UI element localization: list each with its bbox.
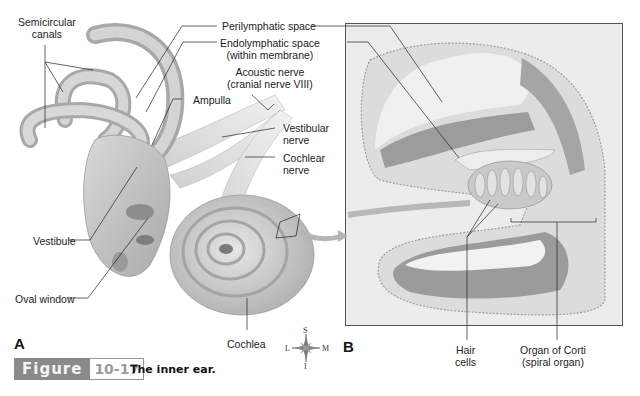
vestibule-shape xyxy=(84,135,170,276)
label-line: Cochlear xyxy=(283,152,325,164)
label-perilymphatic-space: Perilymphatic space xyxy=(222,20,316,32)
compass-inferior: I xyxy=(304,362,307,371)
label-line: (cranial nerve VIII) xyxy=(227,78,313,90)
label-line: nerve xyxy=(283,164,325,176)
label-line: cells xyxy=(455,356,476,368)
label-vestibule: Vestibule xyxy=(33,235,76,247)
figure-badge: Figure 10-17 xyxy=(14,358,144,380)
panel-a-letter: A xyxy=(14,335,25,352)
label-hair-cells: Hair cells xyxy=(455,344,476,368)
label-oval-window: Oval window xyxy=(15,293,75,305)
label-semicircular-canals: Semicircular canals xyxy=(18,16,76,40)
cochlear-duct-cross-section xyxy=(348,43,605,315)
label-endolymphatic-space: Endolymphatic space (within membrane) xyxy=(220,37,320,61)
figure-word: Figure xyxy=(14,358,90,380)
label-line: Endolymphatic space xyxy=(220,37,320,49)
label-line: Vestibular xyxy=(283,122,329,134)
compass-lateral: L xyxy=(285,344,290,353)
label-line: (spiral organ) xyxy=(520,356,586,368)
cochlea-shape xyxy=(170,195,314,315)
label-line: Semicircular xyxy=(18,16,76,28)
compass-medial: M xyxy=(322,344,329,353)
label-acoustic-nerve: Acoustic nerve (cranial nerve VIII) xyxy=(227,66,313,90)
label-line: nerve xyxy=(283,134,329,146)
label-line: Acoustic nerve xyxy=(227,66,313,78)
compass-rose-icon xyxy=(292,334,320,362)
label-line: canals xyxy=(18,28,76,40)
compass-superior: S xyxy=(303,326,307,335)
label-line: Hair xyxy=(455,344,476,356)
figure-caption: The inner ear. xyxy=(130,363,216,376)
label-line: Organ of Corti xyxy=(520,344,586,356)
label-vestibular-nerve: Vestibular nerve xyxy=(283,122,329,146)
panel-b-letter: B xyxy=(343,338,354,355)
label-organ-of-corti: Organ of Corti (spiral organ) xyxy=(520,344,586,368)
label-ampulla: Ampulla xyxy=(193,94,231,106)
label-line: (within membrane) xyxy=(220,49,320,61)
inner-ear-illustration xyxy=(0,0,640,396)
label-cochlea: Cochlea xyxy=(227,338,266,350)
label-cochlear-nerve: Cochlear nerve xyxy=(283,152,325,176)
